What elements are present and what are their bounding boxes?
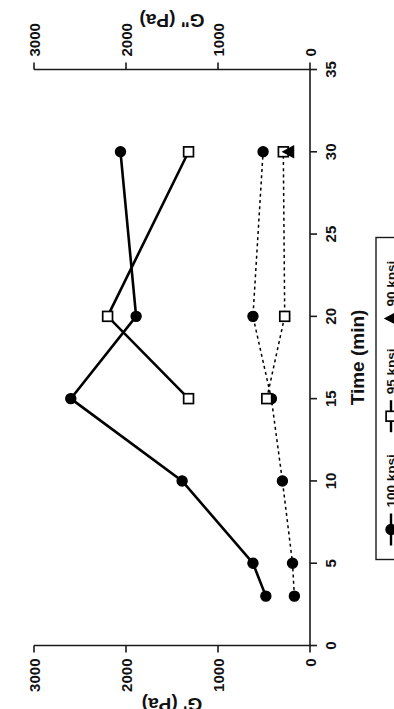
data-point-marker (184, 393, 194, 403)
time-axis-title: Time (min) (347, 309, 368, 405)
chart-canvas: 0510152025303501000200030000100020003000… (0, 0, 394, 709)
data-point-marker (103, 311, 113, 321)
data-point-marker (289, 591, 299, 601)
time-tick-label: 25 (322, 225, 339, 242)
time-tick-label: 0 (322, 641, 339, 649)
data-point-marker (280, 311, 290, 321)
legend-entry-95-kpsi[interactable]: 95 kpsi (384, 348, 394, 432)
time-tick-label: 5 (322, 559, 339, 567)
chart-svg: 0510152025303501000200030000100020003000… (0, 0, 394, 709)
legend-label: 90 kpsi (384, 260, 394, 306)
series-line (108, 151, 189, 398)
g-prime-axis-title: G' (Pa) (142, 693, 202, 709)
figure-page: 0510152025303501000200030000100020003000… (0, 0, 394, 709)
data-point-marker (248, 311, 258, 321)
axes-layer (34, 62, 317, 652)
data-point-marker (262, 393, 272, 403)
g-double-prime-tick-label: 2000 (118, 23, 135, 56)
time-tick-label: 20 (322, 308, 339, 325)
legend-marker (386, 411, 394, 421)
data-point-marker (277, 475, 287, 485)
g-prime-tick-label: 2000 (118, 658, 135, 691)
g-prime-tick-label: 0 (302, 658, 319, 666)
series-line (267, 151, 285, 398)
time-tick-label: 30 (322, 143, 339, 160)
series-line (71, 151, 266, 595)
data-point-marker (258, 146, 268, 156)
data-point-marker (131, 311, 141, 321)
series-95-kpsi-g-double-prime (262, 146, 290, 403)
data-point-marker (287, 558, 297, 568)
legend-label: 95 kpsi (384, 348, 394, 394)
g-prime-tick-label: 1000 (210, 658, 227, 691)
series-100-kpsi-g-double-prime (248, 146, 300, 601)
series-layer (66, 146, 300, 601)
data-point-marker (177, 475, 187, 485)
data-point-marker (248, 558, 258, 568)
legend-marker (386, 524, 394, 534)
data-point-marker (261, 591, 271, 601)
g-double-prime-axis-title: G" (Pa) (140, 9, 205, 30)
series-95-kpsi-g-prime (103, 146, 194, 403)
time-tick-label: 15 (322, 390, 339, 407)
data-point-marker (66, 393, 76, 403)
g-double-prime-tick-label: 0 (302, 48, 319, 56)
time-tick-label: 35 (322, 61, 339, 78)
legend-label: 100 kpsi (384, 454, 394, 507)
data-point-marker (115, 146, 125, 156)
g-double-prime-tick-label: 1000 (210, 23, 227, 56)
rotated-chart-wrapper: 0510152025303501000200030000100020003000… (0, 0, 394, 709)
g-prime-tick-label: 3000 (26, 658, 43, 691)
legend-layer[interactable]: 100 kpsi95 kpsi90 kpsi (376, 237, 394, 559)
time-tick-label: 10 (322, 472, 339, 489)
g-double-prime-tick-label: 3000 (26, 23, 43, 56)
data-point-marker (184, 146, 194, 156)
series-100-kpsi-g-prime (66, 146, 271, 601)
axis-labels-layer: 0510152025303501000200030000100020003000… (26, 9, 369, 709)
series-line (253, 151, 294, 595)
